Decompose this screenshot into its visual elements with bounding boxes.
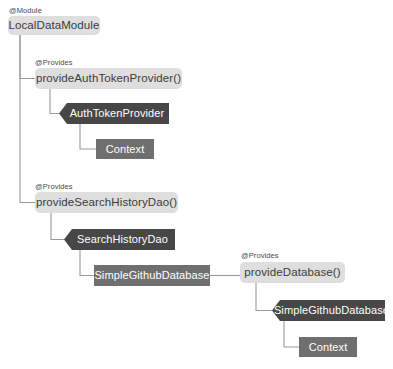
annotation-ann-provides-auth: @Provides <box>35 59 73 67</box>
edge-local-data-module-to-provide-auth-token-provider <box>20 35 35 79</box>
edge-search-history-dao-to-simple-github-database-dep <box>80 250 94 276</box>
node-search-history-dao[interactable]: SearchHistoryDao <box>64 229 175 250</box>
edge-simple-github-database-to-context-db <box>284 321 299 347</box>
node-context-auth[interactable]: Context <box>96 139 154 159</box>
dependency-graph-canvas: @Module@Provides@Provides@Provides Local… <box>0 0 393 369</box>
edge-provide-auth-token-provider-to-auth-token-provider <box>50 89 59 114</box>
node-context-db[interactable]: Context <box>299 337 357 357</box>
edge-provide-database-to-simple-github-database <box>256 283 272 311</box>
node-simple-github-database-dep[interactable]: SimpleGithubDatabase <box>94 265 210 286</box>
node-local-data-module[interactable]: LocalDataModule <box>8 16 100 35</box>
annotation-ann-provides-db: @Provides <box>241 252 279 260</box>
node-provide-database[interactable]: provideDatabase() <box>240 262 345 283</box>
node-auth-token-provider[interactable]: AuthTokenProvider <box>59 103 169 124</box>
node-simple-github-database[interactable]: SimpleGithubDatabase <box>272 300 385 321</box>
node-provide-auth-token-provider[interactable]: provideAuthTokenProvider() <box>35 68 182 89</box>
annotation-ann-module: @Module <box>9 7 42 15</box>
node-provide-search-history-dao[interactable]: provideSearchHistoryDao() <box>35 192 178 213</box>
edge-local-data-module-to-provide-search-history-dao <box>20 35 35 203</box>
edge-provide-search-history-dao-to-search-history-dao <box>51 213 64 240</box>
annotation-ann-provides-dao: @Provides <box>35 183 73 191</box>
edge-auth-token-provider-to-context-auth <box>80 124 96 149</box>
